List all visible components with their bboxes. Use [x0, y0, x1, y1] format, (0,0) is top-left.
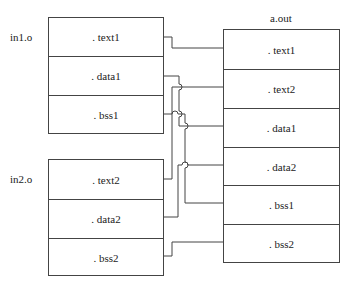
wire-bss2: [164, 242, 223, 256]
connector-wires: [0, 0, 350, 286]
wire-data2: [164, 162, 223, 217]
wire-text1: [164, 37, 223, 48]
wire-bss1: [164, 111, 223, 203]
wire-data1: [164, 76, 223, 126]
